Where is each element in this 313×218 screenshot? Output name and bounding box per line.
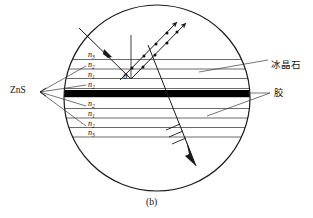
hatch-mark-1 bbox=[166, 124, 180, 130]
reflected-ray-2 bbox=[120, 22, 177, 80]
ray-dot bbox=[155, 43, 158, 46]
zns-material-label: ZnS bbox=[10, 86, 26, 96]
black-layer-band bbox=[60, 90, 256, 97]
ray-dot bbox=[131, 67, 134, 70]
cryolite-material-label: 冰晶石 bbox=[271, 60, 301, 70]
theta-angle-label: θ bbox=[123, 72, 127, 81]
ray-dot bbox=[176, 31, 179, 34]
hatch-mark-2 bbox=[169, 131, 183, 137]
layer-index-label-1: n3 bbox=[88, 51, 95, 59]
optics-diagram-svg bbox=[0, 0, 313, 218]
transmitted-ray-arrowhead bbox=[185, 140, 196, 166]
layer-index-label-5: n2 bbox=[88, 100, 95, 108]
ray-dot bbox=[154, 54, 157, 57]
hatch-mark-3 bbox=[172, 138, 186, 144]
figure-caption: (b) bbox=[146, 198, 157, 208]
layer-index-label-3: n1 bbox=[88, 71, 95, 79]
magnifier-circle bbox=[64, 5, 250, 191]
ray-dot bbox=[166, 32, 169, 35]
figure-container: n3 n2 n1 n2 n2 n1 n2 n3 θ ZnS 冰晶石 胶 (b) bbox=[0, 0, 313, 218]
ray-dot bbox=[143, 55, 146, 58]
layer-index-label-4: n2 bbox=[88, 81, 95, 89]
incident-ray-arrowhead bbox=[103, 49, 112, 58]
layer-index-label-2: n2 bbox=[88, 61, 95, 69]
layer-index-label-6: n1 bbox=[88, 110, 95, 118]
transmitted-ray bbox=[148, 45, 196, 166]
layer-index-label-8: n3 bbox=[88, 129, 95, 137]
ray-dot bbox=[142, 66, 145, 69]
cryolite-leader-line bbox=[199, 60, 268, 72]
ray-dot bbox=[166, 42, 169, 45]
layer-index-label-7: n2 bbox=[88, 120, 95, 128]
glue-material-label: 胶 bbox=[274, 88, 284, 98]
